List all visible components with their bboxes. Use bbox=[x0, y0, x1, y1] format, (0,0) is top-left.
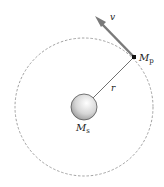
planet-label: Mp bbox=[138, 52, 154, 65]
orbit-diagram: v Mp r Ms bbox=[0, 0, 164, 187]
star-label: Ms bbox=[75, 122, 90, 135]
star bbox=[71, 94, 97, 120]
planet bbox=[132, 55, 136, 59]
velocity-label: v bbox=[110, 12, 115, 22]
radius-label: r bbox=[111, 83, 116, 93]
velocity-arrow bbox=[100, 22, 134, 57]
